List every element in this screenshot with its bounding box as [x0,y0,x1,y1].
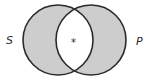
venn-diagram: S P * [0,0,149,79]
intersection-marker: * [71,37,76,48]
set-s-label: S [6,34,13,47]
set-p-label: P [136,35,143,48]
